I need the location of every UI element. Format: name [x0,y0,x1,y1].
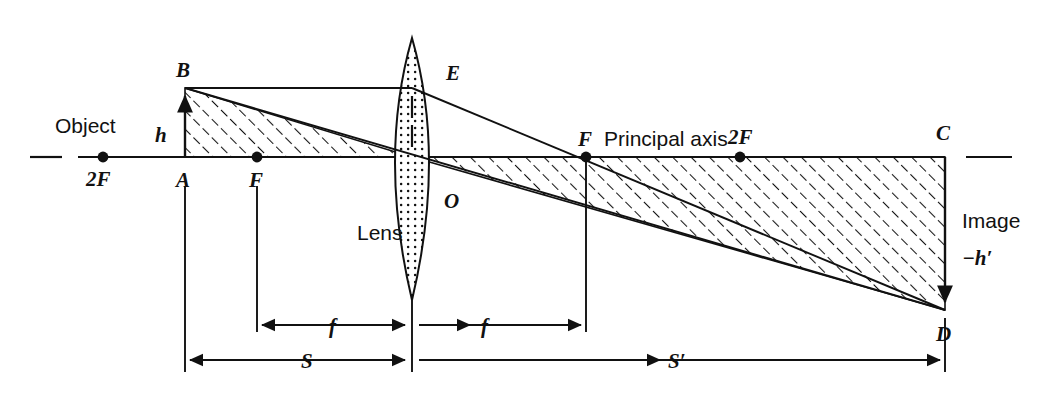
label-image-height: −h′ [962,246,992,270]
dot-f-right [581,152,592,163]
label-point-a: A [174,168,190,192]
label-principal-axis: Principal axis [604,127,728,150]
label-object: Object [55,114,116,137]
label-point-o: O [444,189,459,213]
label-lens: Lens [357,221,403,244]
dot-2f-left [98,152,109,163]
dot-f-left [252,152,263,163]
label-focal-right: f [481,314,490,338]
label-point-e: E [445,61,460,85]
label-object-height: h [155,123,167,147]
label-f-left: F [248,168,263,192]
label-point-d: D [935,322,951,346]
label-focal-left: f [329,314,338,338]
label-object-distance: S [301,349,313,373]
label-f-right: F [577,127,592,151]
label-point-b: B [175,58,190,82]
label-2f-left: 2F [85,167,111,191]
label-2f-right: 2F [727,125,753,149]
lens-ray-diagram: Object h 2F A F B E O Lens F Principal a… [0,0,1063,396]
label-image-distance: S′ [668,349,686,373]
dot-2f-right [735,152,746,163]
lens-body [395,38,429,300]
label-point-c: C [936,121,951,145]
label-image: Image [962,209,1020,232]
optics-diagram-canvas: Object h 2F A F B E O Lens F Principal a… [0,0,1063,396]
